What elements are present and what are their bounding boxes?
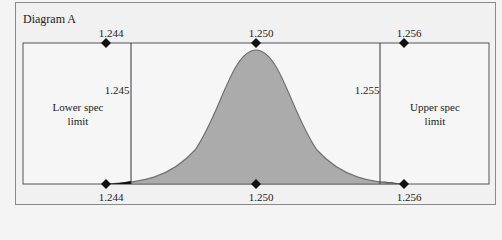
- bottom-tick-label: 1.244: [99, 191, 124, 203]
- lower-spec-label: Lower spec limit: [52, 100, 103, 128]
- lower-spec-line1: Lower spec: [52, 100, 103, 114]
- upper-spec-line1: Upper spec: [410, 100, 460, 114]
- bottom-tick-label: 1.256: [397, 191, 422, 203]
- upper-spec-value: 1.255: [355, 84, 380, 96]
- top-tick-label: 1.244: [99, 27, 124, 39]
- upper-spec-line2: limit: [410, 114, 460, 128]
- top-tick-label: 1.256: [397, 27, 422, 39]
- bottom-tick-label: 1.250: [249, 191, 274, 203]
- upper-spec-label: Upper spec limit: [410, 100, 460, 128]
- lower-spec-value: 1.245: [105, 84, 130, 96]
- lower-spec-line2: limit: [52, 114, 103, 128]
- top-tick-label: 1.250: [249, 27, 274, 39]
